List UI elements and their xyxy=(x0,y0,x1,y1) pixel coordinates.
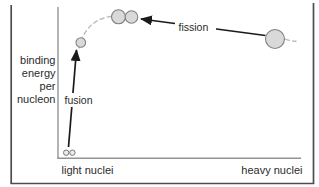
x-axis-label-light-nuclei: light nuclei xyxy=(62,164,114,176)
y-axis-label-line-2: energy xyxy=(22,67,56,79)
large-nucleus-icon xyxy=(266,30,285,49)
curve-continuation-dashes xyxy=(286,39,297,41)
frame-border xyxy=(10,3,314,184)
y-axis-label-line-4: nucleon xyxy=(17,93,56,105)
binding-energy-diagram: binding energy per nucleon fusion fissio… xyxy=(0,0,319,187)
small-nucleus-icon xyxy=(76,38,86,48)
two-tiny-nuclei-icon xyxy=(63,150,75,155)
y-axis-label-line-3: per xyxy=(40,80,56,92)
y-axis-label-line-1: binding xyxy=(20,54,55,66)
x-axis-label-heavy-nuclei: heavy nuclei xyxy=(241,164,302,176)
y-axis-label: binding energy per nucleon xyxy=(17,54,56,105)
fusion-label: fusion xyxy=(65,94,93,106)
two-medium-nuclei-icon xyxy=(112,10,138,24)
fission-label: fission xyxy=(179,21,209,33)
diagram-canvas: binding energy per nucleon fusion fissio… xyxy=(0,0,319,187)
